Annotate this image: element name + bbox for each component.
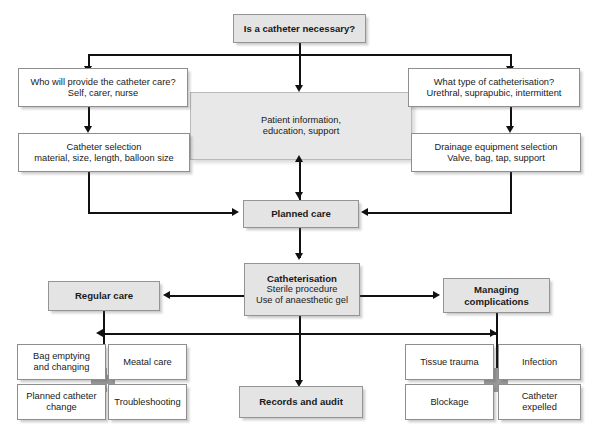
- node-records-and-audit-title: Records and audit: [259, 396, 343, 407]
- flowchart-canvas: Is a catheter necessary? Who will provid…: [0, 0, 601, 442]
- node-catheterisation[interactable]: Catheterisation Sterile procedure Use of…: [244, 263, 360, 316]
- node-infection-line1: Infection: [522, 357, 557, 368]
- connector-regularcare-down: [103, 311, 105, 335]
- connector-catheterisation-to-regularcare: [170, 295, 246, 297]
- arrowhead-to-patient-info: [295, 85, 303, 92]
- node-blockage[interactable]: Blockage: [405, 384, 494, 420]
- node-catheter-expelled[interactable]: Catheter expelled: [498, 384, 581, 420]
- node-who-provides[interactable]: Who will provide the catheter care? Self…: [18, 68, 188, 107]
- node-start-title: Is a catheter necessary?: [244, 23, 355, 34]
- node-catheterisation-line2: Use of anaesthetic gel: [256, 295, 348, 306]
- node-who-provides-line2: Self, carer, nurse: [68, 88, 138, 99]
- connector-catheterisation-to-records: [299, 316, 301, 384]
- node-type-catheterisation[interactable]: What type of catheterisation? Urethral, …: [408, 68, 580, 107]
- node-catheter-selection-line1: Catheter selection: [67, 142, 142, 153]
- arrowhead-to-patient-info-up: [295, 155, 303, 162]
- node-catheter-expelled-line2: expelled: [522, 402, 557, 413]
- node-tissue-trauma[interactable]: Tissue trauma: [405, 344, 494, 380]
- node-catheterisation-line1: Sterile procedure: [267, 284, 338, 295]
- node-start[interactable]: Is a catheter necessary?: [233, 14, 366, 43]
- node-managing-complications-line1: Managing: [474, 284, 519, 295]
- node-catheter-selection[interactable]: Catheter selection material, size, lengt…: [18, 133, 190, 172]
- node-who-provides-line1: Who will provide the catheter care?: [30, 77, 175, 88]
- arrowhead-lower-bus-left: [96, 329, 103, 337]
- arrowhead-plannedcare-from-right: [361, 208, 368, 216]
- node-bag-emptying[interactable]: Bag emptying and changing: [17, 344, 106, 380]
- arrowhead-to-managing-complications: [433, 291, 440, 299]
- node-patient-information-line1: Patient information,: [261, 115, 341, 126]
- arrowhead-lower-bus-right: [490, 329, 497, 337]
- arrowhead-to-drainage-selection: [506, 126, 514, 133]
- connector-drainage-down: [510, 172, 512, 214]
- connector-selection-to-plannedcare: [88, 212, 233, 214]
- node-troubleshooting-line1: Troubleshooting: [114, 397, 180, 408]
- node-regular-care[interactable]: Regular care: [48, 281, 160, 311]
- connector-selection-down: [88, 172, 90, 214]
- node-blockage-line1: Blockage: [430, 397, 468, 408]
- connector-bus-centre-down: [299, 54, 301, 87]
- node-patient-information[interactable]: Patient information, education, support: [190, 92, 412, 160]
- node-planned-catheter-change[interactable]: Planned catheter change: [17, 384, 106, 420]
- node-patient-information-line2: education, support: [263, 126, 340, 137]
- node-meatal-care[interactable]: Meatal care: [108, 344, 187, 380]
- node-type-catheterisation-line1: What type of catheterisation?: [434, 77, 554, 88]
- connector-catheterisation-to-managing: [358, 295, 434, 297]
- node-type-catheterisation-line2: Urethral, suprapubic, intermittent: [427, 88, 562, 99]
- node-meatal-care-line1: Meatal care: [123, 357, 172, 368]
- node-planned-catheter-change-line2: change: [46, 402, 77, 413]
- arrowhead-plannedcare-from-left: [232, 208, 239, 216]
- node-troubleshooting[interactable]: Troubleshooting: [108, 384, 187, 420]
- node-bag-emptying-line2: and changing: [34, 362, 90, 373]
- node-drainage-line1: Drainage equipment selection: [434, 142, 557, 153]
- node-planned-catheter-change-line1: Planned catheter: [26, 391, 96, 402]
- node-managing-complications[interactable]: Managing complications: [443, 278, 550, 313]
- node-regular-care-title: Regular care: [75, 290, 133, 301]
- connector-drainage-to-plannedcare: [368, 212, 512, 214]
- node-infection[interactable]: Infection: [498, 344, 581, 380]
- arrowhead-to-regular-care: [163, 291, 170, 299]
- arrowhead-to-planned-care-down: [295, 192, 303, 199]
- node-records-and-audit[interactable]: Records and audit: [239, 386, 363, 418]
- node-tissue-trauma-line1: Tissue trauma: [420, 357, 479, 368]
- node-planned-care-title: Planned care: [271, 208, 331, 219]
- node-catheterisation-title: Catheterisation: [267, 273, 337, 284]
- arrowhead-to-catheterisation: [295, 253, 303, 260]
- node-managing-complications-line2: complications: [464, 296, 529, 307]
- node-catheter-expelled-line1: Catheter: [522, 391, 558, 402]
- node-catheter-selection-line2: material, size, length, balloon size: [34, 153, 174, 164]
- node-planned-care[interactable]: Planned care: [243, 200, 359, 228]
- node-bag-emptying-line1: Bag emptying: [33, 351, 90, 362]
- node-drainage-line2: Valve, bag, tap, support: [447, 153, 545, 164]
- node-drainage-equipment-selection[interactable]: Drainage equipment selection Valve, bag,…: [411, 133, 581, 172]
- arrowhead-to-catheter-selection: [84, 126, 92, 133]
